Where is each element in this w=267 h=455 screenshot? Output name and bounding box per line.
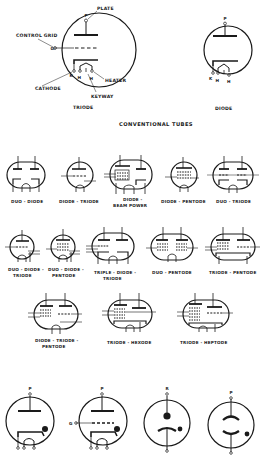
keyway-callout: KEYWAY <box>91 94 114 99</box>
diode-pin-h2: H <box>227 79 231 84</box>
triode-heptode-symbol: TRIODE - HEPTODE <box>177 293 233 345</box>
duo-diode-label: DUO - DIODE <box>11 199 43 204</box>
triple-diode-triode-label-2: TRIODE <box>103 276 122 281</box>
diode-triode-pentode-label-1: DIODE - TRIODE - <box>35 338 79 343</box>
cold-cathode-tube-symbol: R <box>144 386 190 452</box>
gas-triode-pin-p: P <box>101 386 104 391</box>
diode-triode-label: DIODE - TRIODE <box>59 199 99 204</box>
diode-beam-power-label-1: DIODE - <box>123 197 143 202</box>
diode-pin-h1: H <box>216 78 220 83</box>
triple-diode-triode-label-1: TRIPLE - DIODE - <box>94 270 136 275</box>
diode-pin-k: K <box>209 76 213 81</box>
duo-diode-triode-label-2: TRIODE <box>13 273 32 278</box>
duo-diode-triode-symbol: DUO - DIODE - TRIODE <box>5 230 44 278</box>
duo-pentode-symbol: DUO - PENTODE <box>146 227 198 275</box>
triode-label: TRIODE <box>73 105 93 110</box>
diode-pin-p: P <box>224 16 227 21</box>
gas-triode-symbol: P G <box>69 386 127 449</box>
plate-callout: PLATE <box>97 6 114 11</box>
duo-diode-pentode-label-1: DUO - DIODE - <box>48 267 84 272</box>
cold-cathode-pin-r: R <box>166 386 170 391</box>
diode-triode-pentode-symbol: DIODE - TRIODE - PENTODE <box>28 293 82 349</box>
triode-hexode-symbol: TRIODE - HEXODE <box>102 293 156 345</box>
duo-diode-pentode-symbol: DUO - DIODE - PENTODE <box>46 229 84 278</box>
pin-h1-label: H <box>78 75 82 80</box>
duo-pentode-label: DUO - PENTODE <box>152 270 192 275</box>
triode-pentode-symbol: TRIODE - PENTODE <box>205 227 260 275</box>
gas-rectifier-symbol: P <box>208 390 254 454</box>
pin-p-label: P <box>85 13 88 18</box>
triode-reference-symbol: P G K H H PLATE CONTROL GRID CATHODE HEA… <box>16 6 136 110</box>
diode-beam-power-symbol: DIODE - BEAM POWER <box>104 155 152 208</box>
section-title: CONVENTIONAL TUBES <box>119 121 193 127</box>
vacuum-tube-symbols-diagram: P G K H H PLATE CONTROL GRID CATHODE HEA… <box>0 0 267 455</box>
diode-pentode-label: DIODE - PENTODE <box>161 199 206 204</box>
pin-k-label: K <box>70 73 74 78</box>
gas-rectifier-pin-p: P <box>230 390 233 395</box>
diode-triode-pentode-label-2: PENTODE <box>42 344 66 349</box>
heater-callout: HEATER <box>105 78 126 83</box>
control-grid-callout: CONTROL GRID <box>16 33 57 38</box>
gas-diode-pin-p: P <box>29 386 32 391</box>
duo-triode-symbol: DUO - TRIODE <box>207 156 259 204</box>
duo-triode-label: DUO - TRIODE <box>216 199 251 204</box>
diode-pentode-symbol: DIODE - PENTODE <box>161 157 206 204</box>
gas-triode-pin-g: G <box>69 421 73 426</box>
triple-diode-triode-symbol: TRIPLE - DIODE - TRIODE <box>86 227 136 281</box>
diode-label: DIODE <box>215 106 232 111</box>
gas-diode-symbol: P <box>6 386 54 449</box>
duo-diode-triode-label-1: DUO - DIODE - <box>8 267 44 272</box>
triode-hexode-label: TRIODE - HEXODE <box>107 340 152 345</box>
diode-beam-power-label-2: BEAM POWER <box>113 203 148 208</box>
cathode-callout: CATHODE <box>35 86 61 91</box>
triode-pentode-label: TRIODE - PENTODE <box>209 270 257 275</box>
triode-heptode-label: TRIODE - HEPTODE <box>180 340 228 345</box>
duo-diode-symbol: DUO - DIODE <box>7 156 45 204</box>
diode-reference-symbol: P K H H DIODE <box>204 16 252 112</box>
duo-diode-pentode-label-2: PENTODE <box>52 273 76 278</box>
diode-triode-symbol: DIODE - TRIODE <box>59 157 99 204</box>
